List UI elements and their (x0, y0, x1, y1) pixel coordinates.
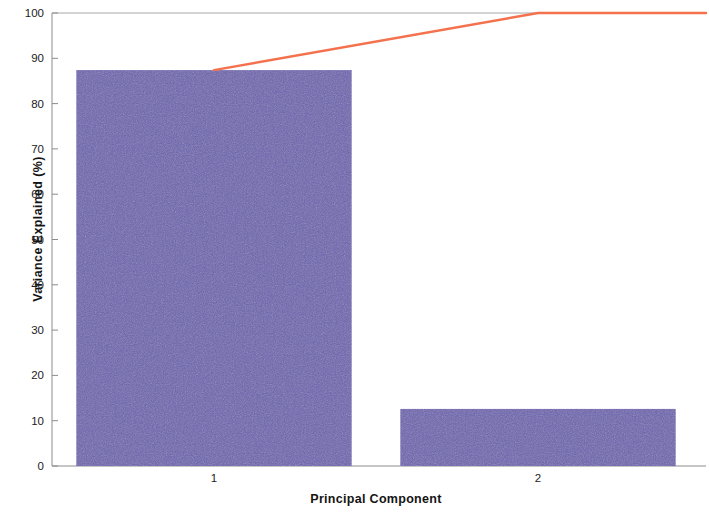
cumulative-line (214, 13, 706, 70)
bar-series (76, 70, 675, 466)
pareto-chart: Variance Explained (%) 01020304050607080… (0, 0, 709, 517)
bar (76, 70, 351, 466)
plot-area (0, 0, 709, 517)
cumulative-line-series (214, 13, 706, 70)
bar (400, 409, 675, 466)
